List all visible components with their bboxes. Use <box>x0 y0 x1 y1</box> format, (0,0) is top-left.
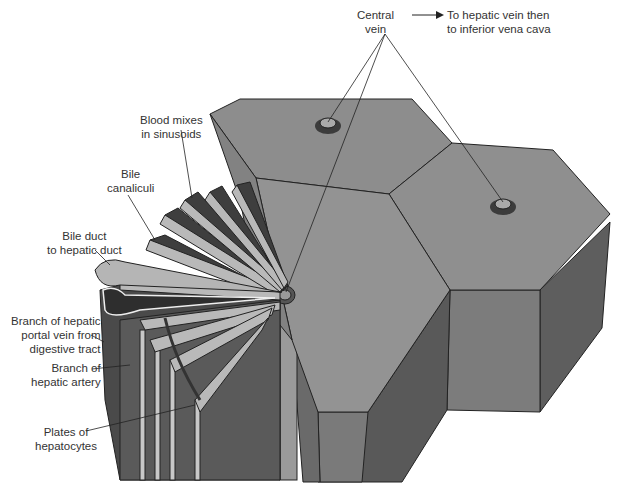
label-to-hepatic-vein: To hepatic vein then to inferior vena ca… <box>447 8 551 36</box>
liver-lobule-diagram: Central vein To hepatic vein then to inf… <box>0 0 622 494</box>
label-plates-of-hepatocytes: Plates of hepatocytes <box>35 425 97 453</box>
label-blood-mixes: Blood mixes in sinusoids <box>140 113 203 141</box>
label-bile-duct: Bile duct to hepatic duct <box>47 229 122 257</box>
label-central-vein: Central vein <box>357 8 394 36</box>
arrow-to-hepatic-vein <box>412 11 444 19</box>
hepatocyte-plates <box>95 182 288 480</box>
label-portal-vein: Branch of hepatic portal vein from diges… <box>11 314 101 356</box>
label-hepatic-artery: Branch of hepatic artery <box>31 361 101 389</box>
label-bile-canaliculi: Bile canaliculi <box>107 167 154 195</box>
